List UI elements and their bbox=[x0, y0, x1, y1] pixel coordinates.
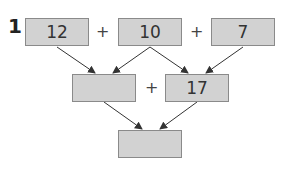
answer-box-total[interactable] bbox=[118, 130, 182, 158]
box-17: 17 bbox=[165, 74, 229, 102]
plus-operator: + bbox=[190, 22, 203, 41]
box-12: 12 bbox=[25, 18, 89, 46]
plus-operator: + bbox=[96, 22, 109, 41]
answer-box-sum-1[interactable] bbox=[72, 74, 136, 102]
problem-number: 1 bbox=[8, 14, 22, 38]
plus-operator: + bbox=[145, 78, 158, 97]
box-10: 10 bbox=[118, 18, 182, 46]
box-7: 7 bbox=[211, 18, 275, 46]
